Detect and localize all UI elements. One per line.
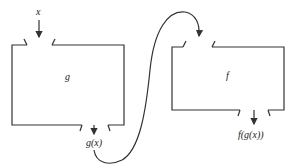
box-g-output-flange-right [108,125,110,131]
box-f-outline-right [212,47,284,110]
box-f: f [172,41,284,116]
g-output-label: g(x) [86,137,103,149]
box-g-outline-left [12,45,82,125]
box-f-input-flange-left [183,41,186,47]
f-output-label: f(g(x)) [238,129,264,141]
box-f-output-flange-left [238,110,240,116]
connector-curve-arrow [94,12,199,163]
box-f-input-flange-right [212,41,215,47]
box-g-output-flange-left [80,125,82,131]
composition-diagram: g x g(x) f f(g(x)) [0,0,292,168]
box-g-label: g [65,71,70,82]
box-g: g [12,39,124,131]
box-g-outline-right [52,45,124,125]
input-x-label: x [35,6,41,17]
box-f-output-flange-right [268,110,270,116]
box-g-input-flange-right [52,39,55,45]
box-f-outline-left [172,47,240,110]
box-g-input-flange-left [24,39,27,45]
box-f-label: f [226,70,230,81]
